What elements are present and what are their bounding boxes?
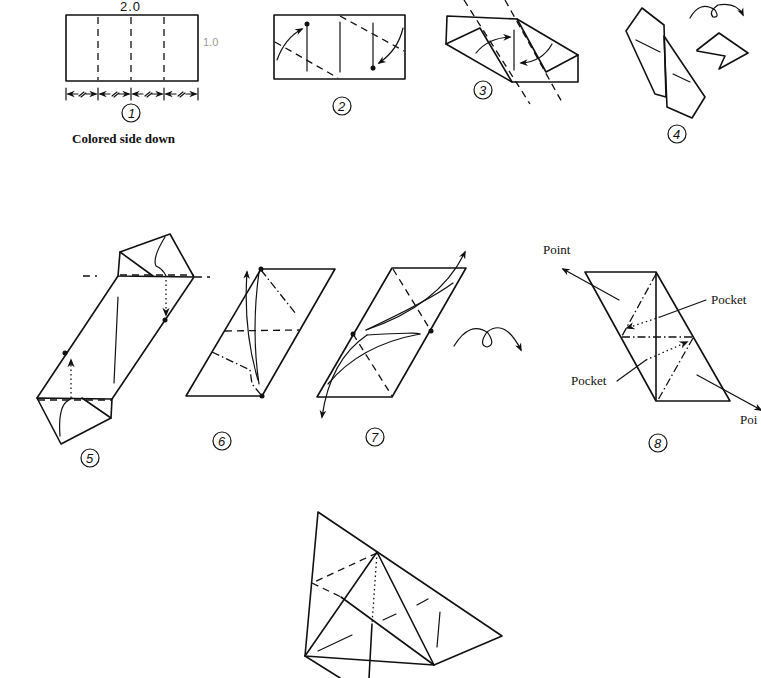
point-arrow-icon: [697, 375, 761, 410]
step-6: 6: [186, 267, 335, 451]
push-arrow-icon: [697, 33, 748, 69]
step-5: 5: [37, 234, 210, 467]
step-number: 3: [479, 83, 487, 98]
fold-arrow-icon: [379, 28, 403, 63]
turn-over-arrow-icon: [454, 328, 521, 350]
paper-rectangle: [66, 15, 198, 81]
equal-division-marks: [66, 88, 198, 100]
step-7: 7: [317, 252, 521, 446]
result-model: [305, 512, 502, 678]
step-2: 2: [274, 15, 405, 115]
step-number: 2: [337, 99, 346, 114]
label-point-bottom: Poi: [740, 412, 758, 427]
step-1: 2.0 1.0 1 Colored side down: [66, 0, 218, 146]
unfold-arrow-icon: [366, 252, 465, 330]
step-number: 1: [128, 106, 135, 121]
point-arrow-icon: [563, 269, 619, 300]
label-pocket-top: Pocket: [711, 292, 747, 307]
diagram-page: 2.0 1.0 1 Colored side down: [0, 0, 761, 678]
label-pocket-bottom: Pocket: [571, 373, 607, 388]
step-8: Point Pocket Pocket Poi 8: [543, 242, 761, 452]
label-point-top: Point: [543, 242, 571, 257]
step-number: 5: [86, 451, 94, 466]
height-label: 1.0: [203, 36, 218, 48]
width-label: 2.0: [120, 0, 141, 14]
step-number: 6: [218, 434, 226, 449]
step-4: 4: [626, 4, 748, 143]
turn-over-arrow-icon: [690, 4, 743, 18]
step-number: 7: [371, 430, 379, 445]
step-3: 3: [446, 0, 578, 104]
step-number: 8: [654, 436, 662, 451]
caption: Colored side down: [72, 131, 176, 146]
step-number: 4: [673, 127, 680, 142]
